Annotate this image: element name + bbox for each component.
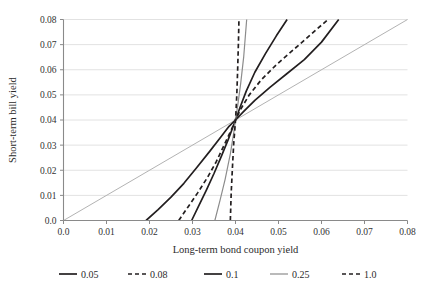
- line-chart-svg: 0.00.010.020.030.040.050.060.070.080.00.…: [0, 0, 427, 293]
- y-tick-label-2: 0.02: [40, 166, 57, 176]
- legend-label-0.25: 0.25: [292, 269, 310, 280]
- y-tick-label-8: 0.08: [40, 15, 57, 25]
- y-tick-label-7: 0.07: [40, 40, 57, 50]
- x-tick-label-6: 0.06: [313, 227, 330, 237]
- x-tick-label-1: 0.01: [98, 227, 115, 237]
- y-tick-label-3: 0.03: [40, 141, 57, 151]
- y-tick-label-5: 0.05: [40, 90, 57, 100]
- y-tick-label-4: 0.04: [40, 115, 57, 125]
- legend-label-0.05: 0.05: [81, 269, 99, 280]
- x-tick-label-2: 0.02: [141, 227, 158, 237]
- x-tick-label-4: 0.04: [227, 227, 244, 237]
- x-axis-title: Long-term bond coupon yield: [173, 244, 299, 255]
- y-tick-label-1: 0.01: [40, 191, 57, 201]
- legend-label-0.1: 0.1: [226, 269, 239, 280]
- y-tick-label-6: 0.06: [40, 65, 57, 75]
- x-tick-label-0: 0.0: [58, 227, 70, 237]
- x-tick-label-5: 0.05: [270, 227, 287, 237]
- x-tick-label-3: 0.03: [184, 227, 201, 237]
- x-tick-label-7: 0.07: [356, 227, 373, 237]
- x-tick-label-8: 0.08: [399, 227, 416, 237]
- chart-legend: 0.050.080.10.251.0: [59, 269, 377, 280]
- y-tick-label-0: 0.0: [45, 216, 57, 226]
- legend-label-1.0: 1.0: [364, 269, 377, 280]
- tick-labels: 0.00.010.020.030.040.050.060.070.080.00.…: [40, 15, 416, 237]
- y-axis-title: Short-term bill yield: [7, 76, 18, 162]
- legend-label-0.08: 0.08: [150, 269, 168, 280]
- chart-figure: 0.00.010.020.030.040.050.060.070.080.00.…: [0, 0, 427, 293]
